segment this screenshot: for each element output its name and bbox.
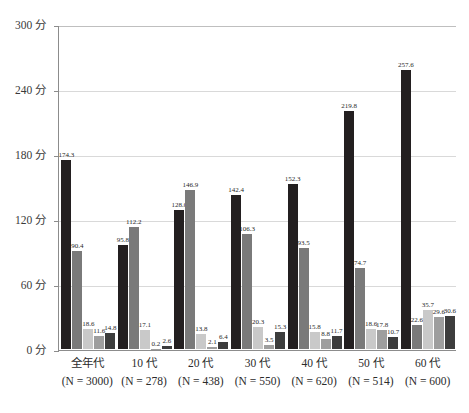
bar[interactable] xyxy=(253,327,263,349)
bar[interactable] xyxy=(332,336,342,349)
bar[interactable] xyxy=(231,195,241,349)
bar-container: 174.3 xyxy=(61,26,71,349)
x-axis-group-label: 10 代(N = 278) xyxy=(116,355,173,391)
x-axis-sample-size: (N = 600) xyxy=(399,373,456,391)
bar-container: 22.6 xyxy=(412,26,422,349)
bar-group: 152.393.515.88.811.7 xyxy=(286,26,343,349)
bar-value-label: 10.7 xyxy=(387,329,399,336)
bar-value-label: 2.1 xyxy=(208,339,217,346)
bar-value-label: 8.8 xyxy=(321,331,330,338)
bar[interactable] xyxy=(423,310,433,349)
bar[interactable] xyxy=(94,336,104,349)
x-axis-category: 30 代 xyxy=(245,357,270,369)
bar[interactable] xyxy=(299,248,309,349)
bar-group: 219.874.718.617.810.7 xyxy=(343,26,400,349)
bar[interactable] xyxy=(118,245,128,349)
bar[interactable] xyxy=(401,70,411,349)
bar[interactable] xyxy=(61,160,71,349)
bar-container: 11.6 xyxy=(94,26,104,349)
bar[interactable] xyxy=(151,349,161,350)
bar[interactable] xyxy=(275,332,285,349)
y-axis-label: 60 分 xyxy=(21,280,46,292)
bar-value-label: 15.3 xyxy=(274,324,286,331)
x-axis-category: 20 代 xyxy=(188,357,213,369)
bar[interactable] xyxy=(434,317,444,349)
bar-value-label: 3.5 xyxy=(265,337,274,344)
bar-container: 10.7 xyxy=(388,26,398,349)
bar[interactable] xyxy=(185,190,195,349)
bar-value-label: 30.6 xyxy=(444,308,456,315)
y-axis-tick xyxy=(54,286,59,287)
bar-container: 15.3 xyxy=(275,26,285,349)
y-axis-tick xyxy=(54,221,59,222)
bar[interactable] xyxy=(344,111,354,349)
bar[interactable] xyxy=(366,329,376,349)
bar-chart: 0 分60 分120 分180 分240 分300 分 174.390.418.… xyxy=(0,0,469,413)
bar-group: 128.0146.913.82.16.4 xyxy=(173,26,230,349)
bar-container: 2.1 xyxy=(207,26,217,349)
bar-container: 112.2 xyxy=(129,26,139,349)
bar[interactable] xyxy=(174,210,184,349)
bar[interactable] xyxy=(105,333,115,349)
bar-group: 174.390.418.611.614.8 xyxy=(60,26,117,349)
bar-container: 14.8 xyxy=(105,26,115,349)
x-axis-sample-size: (N = 514) xyxy=(343,373,400,391)
bar-group: 142.4106.320.33.515.3 xyxy=(230,26,287,349)
bar[interactable] xyxy=(72,251,82,349)
bar[interactable] xyxy=(310,332,320,349)
x-axis-group-label: 30 代(N = 550) xyxy=(229,355,286,391)
bar[interactable] xyxy=(162,346,172,349)
bar-container: 15.8 xyxy=(310,26,320,349)
x-axis-sample-size: (N = 438) xyxy=(172,373,229,391)
bar-container: 6.4 xyxy=(218,26,228,349)
bar[interactable] xyxy=(207,347,217,349)
bar-value-label: 17.1 xyxy=(139,322,151,329)
bar[interactable] xyxy=(412,325,422,349)
bar-container: 93.5 xyxy=(299,26,309,349)
bar-container: 35.7 xyxy=(423,26,433,349)
x-axis-category: 40 代 xyxy=(302,357,327,369)
bar-value-label: 22.6 xyxy=(411,317,423,324)
bar[interactable] xyxy=(377,330,387,349)
bar-value-label: 0.2 xyxy=(151,341,160,348)
bar[interactable] xyxy=(388,337,398,349)
bar-container: 146.9 xyxy=(185,26,195,349)
bar-value-label: 93.5 xyxy=(297,240,309,247)
bar-container: 29.6 xyxy=(434,26,444,349)
x-axis-group-label: 50 代(N = 514) xyxy=(343,355,400,391)
bar-value-label: 15.8 xyxy=(308,324,320,331)
bar-container: 90.4 xyxy=(72,26,82,349)
bar[interactable] xyxy=(196,334,206,349)
bar[interactable] xyxy=(445,316,455,349)
bar[interactable] xyxy=(140,330,150,349)
bar-container: 0.2 xyxy=(151,26,161,349)
bar[interactable] xyxy=(264,345,274,349)
y-axis-label: 180 分 xyxy=(15,150,46,162)
y-axis-tick xyxy=(54,351,59,352)
bar[interactable] xyxy=(218,342,228,349)
bar-container: 219.8 xyxy=(344,26,354,349)
bar[interactable] xyxy=(288,184,298,349)
x-axis-category: 全年代 xyxy=(71,357,104,369)
bar-group: 257.622.635.729.630.6 xyxy=(399,26,456,349)
bar[interactable] xyxy=(129,227,139,349)
bar-container: 3.5 xyxy=(264,26,274,349)
bar-container: 13.8 xyxy=(196,26,206,349)
bar-value-label: 13.8 xyxy=(195,326,207,333)
y-axis-label: 0 分 xyxy=(26,345,46,357)
bar[interactable] xyxy=(321,339,331,349)
bar-container: 74.7 xyxy=(355,26,365,349)
x-axis-group-label: 20 代(N = 438) xyxy=(172,355,229,391)
bar[interactable] xyxy=(83,329,93,349)
bar[interactable] xyxy=(242,234,252,349)
bar-value-label: 14.8 xyxy=(104,325,116,332)
x-axis-sample-size: (N = 278) xyxy=(116,373,173,391)
bar[interactable] xyxy=(355,268,365,349)
x-axis-category: 60 代 xyxy=(415,357,440,369)
bar-container: 95.8 xyxy=(118,26,128,349)
x-axis-labels: 全年代(N = 3000)10 代(N = 278)20 代(N = 438)3… xyxy=(59,355,456,391)
bar-value-label: 2.6 xyxy=(162,338,171,345)
bar-value-label: 74.7 xyxy=(354,260,366,267)
bar-value-label: 20.3 xyxy=(252,319,264,326)
x-axis-category: 10 代 xyxy=(131,357,156,369)
